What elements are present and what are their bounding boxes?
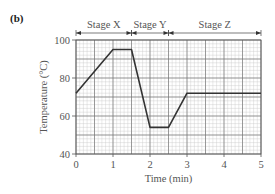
x-tick-label: 1 (110, 159, 115, 170)
y-tick-label: 40 (60, 149, 71, 160)
axis-labels: 406080100012345Time (min)Temperature (°C… (38, 35, 264, 186)
y-tick-label: 80 (60, 73, 71, 84)
grid-major (76, 40, 261, 154)
y-tick-label: 60 (60, 111, 71, 122)
x-tick-label: 0 (73, 159, 78, 170)
stage-label: Stage X (87, 19, 121, 30)
x-tick-label: 4 (221, 159, 227, 170)
x-tick-label: 2 (147, 159, 152, 170)
x-tick-label: 5 (258, 159, 263, 170)
temperature-chart: Stage XStage YStage Z 406080100012345Tim… (0, 0, 275, 194)
x-tick-label: 3 (184, 159, 189, 170)
stage-label: Stage Z (199, 19, 231, 30)
x-axis-title: Time (min) (145, 173, 193, 185)
stage-annotations: Stage XStage YStage Z (76, 19, 261, 36)
axes (72, 40, 261, 157)
y-axis-title: Temperature (°C) (38, 60, 50, 134)
stage-label: Stage Y (133, 19, 167, 30)
y-tick-label: 100 (54, 35, 70, 46)
